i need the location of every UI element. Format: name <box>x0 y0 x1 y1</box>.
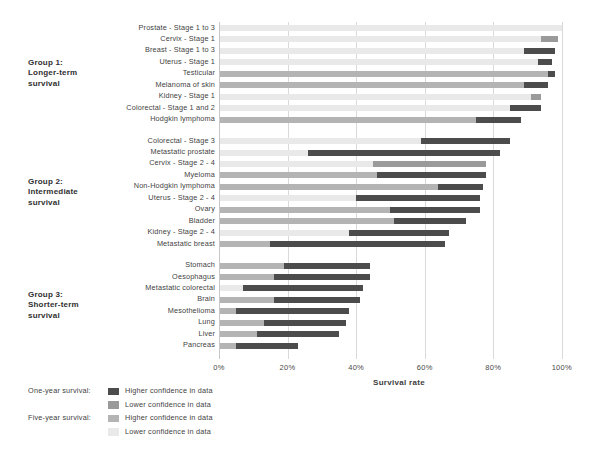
group-caption-line: Group 3: <box>28 290 123 301</box>
one-year-segment <box>394 218 466 224</box>
one-year-segment <box>264 320 346 326</box>
x-tick-label: 100% <box>552 363 572 372</box>
group-caption-line: survival <box>28 198 123 209</box>
legend-swatch <box>108 388 119 396</box>
five-year-segment <box>220 285 243 291</box>
one-year-segment <box>476 117 521 123</box>
bar-row: Ovary <box>219 207 579 213</box>
one-year-segment <box>274 297 360 303</box>
group-caption-line: Shorter-term <box>28 300 123 311</box>
five-year-segment <box>220 82 524 88</box>
bar-row: Stomach <box>219 263 579 269</box>
bar-row: Brain <box>219 297 579 303</box>
bar-row: Lung <box>219 320 579 326</box>
five-year-segment <box>220 308 236 314</box>
bar-row-label: Stomach <box>185 260 215 269</box>
one-year-segment <box>438 184 483 190</box>
bar-row: Kidney - Stage 2 - 4 <box>219 230 579 236</box>
survival-rate-chart: Prostate - Stage 1 to 3Cervix - Stage 1B… <box>0 0 599 458</box>
x-axis-title: Survival rate <box>219 378 579 387</box>
five-year-segment <box>220 274 274 280</box>
five-year-segment <box>220 320 264 326</box>
legend-swatch <box>108 428 119 436</box>
five-year-segment <box>220 161 373 167</box>
bar-row: Mesothelioma <box>219 308 579 314</box>
bar-row-label: Cervix - Stage 2 - 4 <box>149 158 215 167</box>
bar-row: Bladder <box>219 218 579 224</box>
bar-row-label: Breast - Stage 1 to 3 <box>145 45 215 54</box>
bar-row: Colorectal - Stage 1 and 2 <box>219 105 579 111</box>
bar-row: Kidney - Stage 1 <box>219 94 579 100</box>
legend-label: Lower confidence in data <box>125 400 211 409</box>
bar-row: Liver <box>219 331 579 337</box>
bar-row-label: Colorectal - Stage 1 and 2 <box>126 103 215 112</box>
one-year-segment <box>356 195 479 201</box>
one-year-segment <box>236 343 298 349</box>
x-tick-label: 60% <box>417 363 433 372</box>
bar-row-label: Oesophagus <box>172 272 215 281</box>
five-year-segment <box>220 59 538 65</box>
five-year-segment <box>220 48 524 54</box>
group-caption-line: Group 2: <box>28 177 123 188</box>
five-year-segment <box>220 218 394 224</box>
five-year-segment <box>220 230 349 236</box>
bar-row-label: Metastatic colorectal <box>145 283 215 292</box>
bar-row-label: Cervix - Stage 1 <box>160 34 215 43</box>
bar-row-label: Mesothelioma <box>168 306 215 315</box>
five-year-segment <box>220 195 356 201</box>
group-caption: Group 1:Longer-termsurvival <box>28 58 123 90</box>
bar-row-label: Non-Hodgkin lymphoma <box>134 181 215 190</box>
bar-row: Metastatic colorectal <box>219 285 579 291</box>
bar-row: Testicular <box>219 71 579 77</box>
one-year-segment <box>421 138 510 144</box>
bar-row: Metastatic prostate <box>219 150 579 156</box>
group-caption-line: survival <box>28 79 123 90</box>
bar-row: Uterus - Stage 1 <box>219 59 579 65</box>
bar-row-label: Bladder <box>189 216 215 225</box>
bar-row-label: Melanoma of skin <box>155 80 215 89</box>
bar-row: Uterus - Stage 2 - 4 <box>219 195 579 201</box>
five-year-segment <box>220 117 476 123</box>
one-year-segment <box>524 48 555 54</box>
bar-row-label: Uterus - Stage 2 - 4 <box>148 193 215 202</box>
bar-row-label: Testicular <box>183 68 215 77</box>
one-year-segment <box>243 285 363 291</box>
bar-row: Oesophagus <box>219 274 579 280</box>
five-year-segment <box>220 71 548 77</box>
bar-row-label: Uterus - Stage 1 <box>159 57 215 66</box>
five-year-segment <box>220 207 390 213</box>
x-tick-label: 0% <box>213 363 224 372</box>
bar-row-label: Prostate - Stage 1 to 3 <box>139 23 215 32</box>
one-year-segment <box>531 94 541 100</box>
legend-series-label: One-year survival: <box>28 386 106 395</box>
five-year-segment <box>220 184 438 190</box>
group-caption-line: Longer-term <box>28 68 123 79</box>
one-year-segment <box>349 230 448 236</box>
plot-area: Prostate - Stage 1 to 3Cervix - Stage 1B… <box>219 22 579 359</box>
bar-row: Myeloma <box>219 172 579 178</box>
five-year-segment <box>220 263 284 269</box>
one-year-segment <box>390 207 479 213</box>
bar-row: Melanoma of skin <box>219 82 579 88</box>
one-year-segment <box>308 150 500 156</box>
bar-row-label: Ovary <box>195 204 215 213</box>
group-caption-line: survival <box>28 311 123 322</box>
one-year-segment <box>373 161 486 167</box>
one-year-segment <box>548 71 555 77</box>
five-year-segment <box>220 105 510 111</box>
bar-row-label: Colorectal - Stage 3 <box>148 136 216 145</box>
x-tick-label: 80% <box>485 363 501 372</box>
bar-row: Non-Hodgkin lymphoma <box>219 184 579 190</box>
bar-row-label: Metastatic prostate <box>151 147 216 156</box>
one-year-segment <box>377 172 487 178</box>
bar-row: Pancreas <box>219 343 579 349</box>
five-year-segment <box>220 25 562 31</box>
legend-label: Lower confidence in data <box>125 427 211 436</box>
group-caption: Group 2:Intermediatesurvival <box>28 177 123 209</box>
one-year-segment <box>274 274 370 280</box>
five-year-segment <box>220 94 531 100</box>
group-caption-line: Group 1: <box>28 58 123 69</box>
bar-row: Prostate - Stage 1 to 3 <box>219 25 579 31</box>
x-tick-label: 20% <box>280 363 296 372</box>
one-year-segment <box>270 241 445 247</box>
